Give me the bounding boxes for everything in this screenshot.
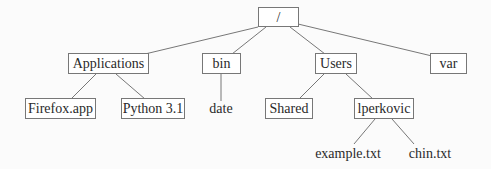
edge-root-bin — [232, 27, 266, 54]
edge-applications-python — [116, 74, 145, 99]
node-firefox: Firefox.app — [25, 98, 96, 119]
node-lperkovic: lperkovic — [354, 98, 414, 119]
node-python: Python 3.1 — [121, 98, 185, 119]
edge-lperkovic-example — [354, 119, 375, 144]
edge-root-users — [290, 27, 325, 54]
edge-users-lperkovic — [346, 74, 373, 99]
edge-applications-firefox — [71, 74, 96, 99]
edge-users-shared — [299, 74, 324, 99]
node-bin: bin — [202, 53, 241, 74]
edge-root-var — [298, 24, 432, 56]
node-var: var — [430, 53, 467, 74]
node-example: example.txt — [310, 144, 386, 165]
node-applications: Applications — [68, 53, 149, 74]
node-users: Users — [315, 53, 357, 74]
edge-root-applications — [145, 27, 258, 54]
node-shared: Shared — [265, 98, 313, 119]
node-root: / — [258, 7, 299, 27]
edge-lperkovic-chin — [392, 119, 414, 144]
node-chin: chin.txt — [400, 144, 460, 165]
node-date: date — [203, 99, 239, 120]
